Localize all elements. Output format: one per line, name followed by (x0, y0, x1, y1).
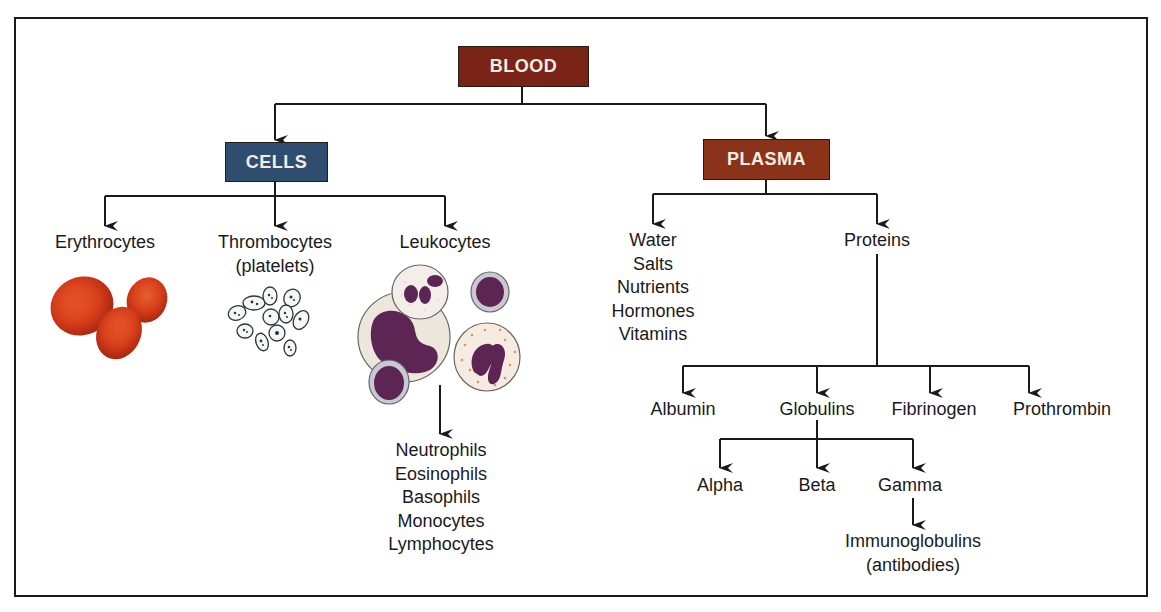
prothrombin-label: Prothrombin (1013, 398, 1111, 421)
thrombocytes-label: Thrombocytes (218, 231, 332, 255)
connector-lines (0, 0, 1161, 612)
plasma-component: Hormones (611, 300, 694, 324)
leukocytes-label: Leukocytes (399, 231, 490, 254)
leukocyte-type: Monocytes (388, 510, 493, 534)
albumin-label: Albumin (650, 398, 715, 421)
cells-box: CELLS (225, 142, 328, 182)
plasma-component: Vitamins (611, 323, 694, 347)
white-blood-cells-illustration (358, 265, 520, 404)
plasma-label: PLASMA (727, 149, 806, 170)
leukocyte-type: Eosinophils (388, 463, 493, 487)
cells-label: CELLS (246, 152, 308, 173)
erythrocytes-label: Erythrocytes (55, 231, 155, 254)
leukocyte-types-list: Neutrophils Eosinophils Basophils Monocy… (388, 439, 493, 557)
blood-box: BLOOD (458, 46, 589, 87)
globulins-label: Globulins (779, 398, 854, 421)
leukocyte-type: Basophils (388, 486, 493, 510)
immunoglobulins-label-group: Immunoglobulins (antibodies) (845, 530, 981, 577)
leukocyte-type: Neutrophils (388, 439, 493, 463)
fibrinogen-label: Fibrinogen (891, 398, 976, 421)
beta-label: Beta (798, 474, 835, 497)
platelets-illustration (226, 286, 312, 356)
blood-label: BLOOD (490, 56, 558, 77)
antibodies-sublabel: (antibodies) (845, 554, 981, 578)
plasma-component: Nutrients (611, 276, 694, 300)
plasma-component: Water (611, 229, 694, 253)
plasma-components-list: Water Salts Nutrients Hormones Vitamins (611, 229, 694, 347)
thrombocytes-label-group: Thrombocytes (platelets) (218, 231, 332, 278)
alpha-label: Alpha (697, 474, 743, 497)
immunoglobulins-label: Immunoglobulins (845, 530, 981, 554)
proteins-label: Proteins (844, 229, 910, 252)
red-blood-cells-illustration (41, 266, 174, 367)
plasma-component: Salts (611, 253, 694, 277)
plasma-box: PLASMA (703, 139, 830, 180)
gamma-label: Gamma (878, 474, 942, 497)
platelets-sublabel: (platelets) (218, 255, 332, 279)
leukocyte-type: Lymphocytes (388, 533, 493, 557)
